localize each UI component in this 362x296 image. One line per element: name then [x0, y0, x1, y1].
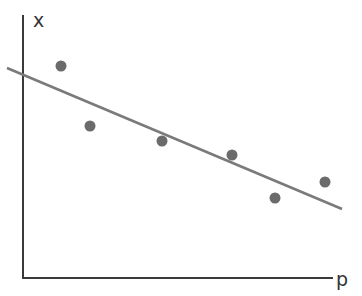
x-axis-label: p: [336, 268, 348, 290]
data-point: [320, 177, 331, 188]
axes: [22, 15, 333, 278]
data-point: [56, 61, 67, 72]
data-point: [227, 150, 238, 161]
y-axis-label: x: [33, 9, 44, 31]
data-points: [56, 61, 331, 204]
scatter-chart: x p: [0, 0, 362, 296]
data-point: [157, 136, 168, 147]
trend-line: [7, 68, 342, 209]
data-point: [85, 121, 96, 132]
data-point: [270, 193, 281, 204]
